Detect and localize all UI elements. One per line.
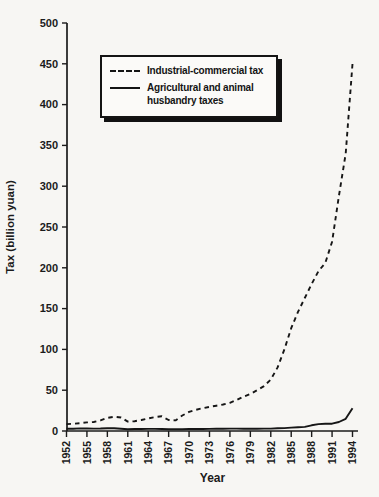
x-tick-label: 1964	[142, 441, 154, 465]
scanned-figure-page: 0501001502002503003504004505001952195519…	[0, 0, 379, 497]
legend-item-agricultural-taxes: Agricultural and animal husbandry taxes	[110, 81, 268, 108]
legend-label: Agricultural and animal husbandry taxes	[147, 81, 268, 108]
series-line-dashed	[67, 64, 353, 424]
x-tick-label: 1985	[285, 441, 297, 465]
x-tick-label: 1979	[244, 441, 256, 465]
x-tick-label: 1976	[224, 441, 236, 465]
solid-line-sample	[110, 87, 140, 89]
x-axis-title: Year	[200, 471, 226, 485]
y-tick-label: 450	[40, 58, 58, 70]
y-axis-title: Tax (billion yuan)	[4, 180, 16, 274]
dashed-line-sample	[110, 70, 140, 72]
y-tick-label: 100	[40, 343, 58, 355]
y-tick-label: 300	[40, 180, 58, 192]
legend-item-industrial-commercial-tax: Industrial-commercial tax	[110, 64, 268, 78]
x-tick-label: 1994	[346, 441, 358, 465]
legend-label: Industrial-commercial tax	[147, 64, 263, 78]
x-tick-label: 1970	[183, 441, 195, 465]
x-tick-label: 1991	[326, 441, 338, 465]
y-tick-label: 500	[40, 17, 58, 29]
x-tick-label: 1952	[60, 441, 72, 465]
y-tick-label: 150	[40, 302, 58, 314]
series-line-solid	[67, 408, 353, 429]
x-tick-label: 1961	[122, 441, 134, 465]
y-tick-label: 350	[40, 139, 58, 151]
x-tick-label: 1955	[81, 441, 93, 465]
x-tick-label: 1973	[203, 441, 215, 465]
y-tick-label: 200	[40, 262, 58, 274]
y-tick-label: 400	[40, 98, 58, 110]
y-tick-label: 50	[46, 384, 58, 396]
y-tick-label: 0	[52, 425, 58, 437]
x-tick-label: 1988	[305, 441, 317, 465]
x-tick-label: 1982	[265, 441, 277, 465]
y-tick-label: 250	[40, 221, 58, 233]
x-tick-label: 1967	[162, 441, 174, 465]
chart-legend: Industrial-commercial tax Agricultural a…	[100, 55, 278, 118]
x-tick-label: 1958	[101, 441, 113, 465]
